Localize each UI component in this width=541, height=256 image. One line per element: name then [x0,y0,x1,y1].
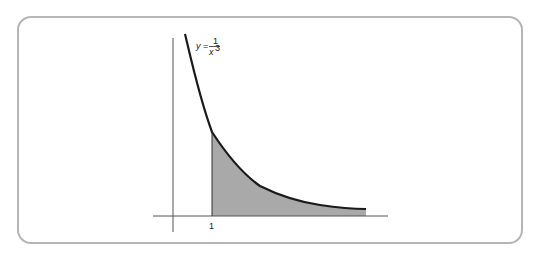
function-label-lhs: y = [195,41,208,51]
x-tick-label-1: 1 [209,221,214,231]
shaded-area [212,132,366,216]
function-label-exponent: 3 [215,43,220,53]
function-label-denominator: x [208,47,214,57]
graph: y = 1 x 3 1 [0,0,541,256]
